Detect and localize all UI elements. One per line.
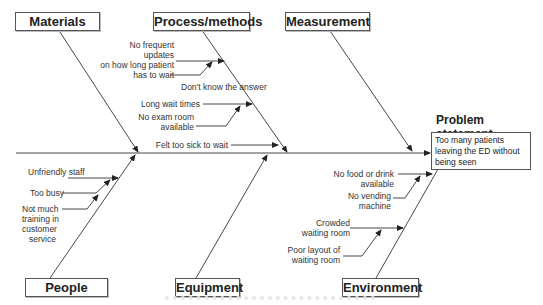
- category-people: People: [25, 278, 108, 297]
- cause-no-vending-machine: No vending machine: [340, 191, 391, 211]
- cause-line: Poor layout of: [276, 245, 340, 255]
- cause-line: No exam room: [130, 112, 194, 122]
- category-process-methods: Process/methods: [153, 12, 250, 31]
- cause-felt-too-sick: Felt too sick to wait: [140, 140, 228, 150]
- cause-line: No frequent updates: [98, 40, 174, 60]
- cause-line: waiting room: [276, 255, 340, 265]
- cause-line: training in: [22, 214, 67, 224]
- cause-unfriendly-staff: Unfriendly staff: [28, 167, 108, 177]
- cause-line: machine: [340, 201, 391, 211]
- cause-no-exam-room: No exam room available: [130, 112, 194, 132]
- cause-line: service: [22, 234, 56, 244]
- cause-line: Not much: [22, 204, 67, 214]
- category-materials: Materials: [15, 12, 100, 31]
- cause-too-busy: Too busy: [30, 188, 70, 198]
- category-environment: Environment: [342, 278, 419, 297]
- bone-measurement: [328, 28, 412, 151]
- cause-line: on how long patient: [98, 60, 174, 70]
- cause-long-wait-times: Long wait times: [130, 99, 200, 109]
- cause-poor-layout: Poor layout of waiting room: [276, 245, 340, 265]
- cause-line: has to wait: [98, 70, 174, 80]
- cause-line: No vending: [340, 191, 391, 201]
- cause-no-frequent-updates: No frequent updates on how long patient …: [98, 40, 174, 80]
- cause-crowded-waiting-room: Crowded waiting room: [290, 218, 350, 238]
- cause-line: Crowded: [290, 218, 350, 228]
- faint-caption-artifact: [165, 296, 375, 305]
- cause-line: No food or drink: [322, 169, 394, 179]
- bone-equipment: [196, 155, 267, 278]
- cause-line: available: [322, 179, 394, 189]
- cause-line: available: [130, 122, 194, 132]
- problem-statement-box: Too many patients leaving the ED without…: [431, 132, 531, 170]
- cause-not-much-training: Not much training in customer service: [22, 204, 67, 244]
- cause-line: customer: [22, 224, 67, 234]
- cause-line: waiting room: [290, 228, 350, 238]
- cause-no-food-or-drink: No food or drink available: [322, 169, 394, 189]
- category-equipment: Equipment: [175, 278, 240, 297]
- cause-dont-know-answer: Don't know the answer: [181, 82, 281, 92]
- category-measurement: Measurement: [285, 12, 370, 31]
